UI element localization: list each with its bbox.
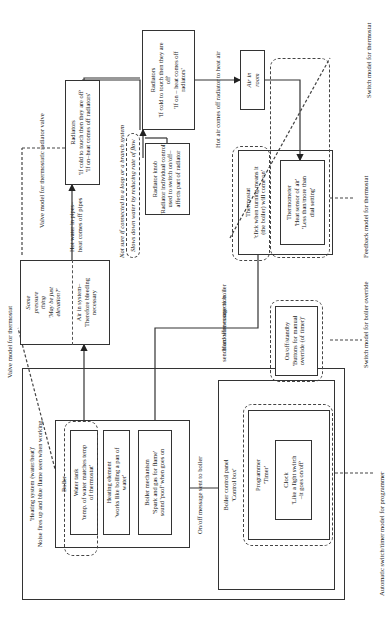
- radiator-knob-text: Radiator knob 'Radiator individual contr…: [151, 143, 181, 215]
- annotation-valve-thermostat: Valve model for thermostat: [6, 306, 14, 378]
- annotation-switch-thermostat: Switch model for thermostat: [365, 23, 373, 98]
- radiators-2-text: Radiators 'If cold to touch then they ar…: [149, 30, 187, 130]
- hot-water-label: Hot water in pipes–: [60, 182, 75, 252]
- switch-boiler-dashed-outline: [270, 300, 323, 382]
- auto-switch-dashed-outline: [243, 404, 333, 546]
- heating-element-text: Heating element 'works like boiling a pa…: [105, 430, 128, 535]
- annotation-switch-boiler: Switch model for boiler override: [362, 282, 370, 368]
- hot-water-label-2: heat comes off pipes: [76, 198, 84, 252]
- control-panel-label: Boiler control panel 'Control box': [222, 380, 237, 590]
- switch-thermostat-dashed-outline: [232, 146, 270, 261]
- annotation-auto-programmer: Automatic switch/timer model for program…: [378, 472, 386, 596]
- annotation-feedback-thermostat: Feedback model for thermostat: [362, 176, 370, 258]
- radiators-1-text: Radiators 'If cold to touch then they ar…: [69, 80, 92, 185]
- air-in-room-text: Air in room: [245, 50, 260, 110]
- hot-air-label: Hot air comes off radiator to heat air: [214, 52, 222, 148]
- heating-system-title: 'Heating system (water/heat)': [28, 368, 36, 600]
- not-sure-label: Not sure if connected in a loop or a bra…: [118, 125, 126, 258]
- hard-wire-label-2: sends on/off message to boiler: [220, 268, 228, 378]
- boiler-mechanism-text: Boiler mechanism 'Spark and gas for flam…: [143, 430, 166, 535]
- diagram-canvas: 'Heating system (water/heat)' Noise fire…: [0, 0, 390, 618]
- annotation-valve-radiator: Valve model for thermostatic radiator va…: [38, 113, 46, 228]
- feedback-dashed-outline: [270, 58, 330, 258]
- slows-down-label: Slows down water by reducing rate of flo…: [129, 139, 137, 252]
- pressure-bottom-text: Air in system– Therefore bleeding necess…: [72, 260, 98, 345]
- pressure-top-text: Some pressure thing 'May be just elevati…: [24, 260, 62, 345]
- heating-system-subtitle: Noise fires up and blue flame seen when …: [36, 368, 44, 600]
- valve-thermostat-dashed-outline: [64, 421, 98, 556]
- onoff-message-label: On/off message sent to boiler: [196, 456, 204, 534]
